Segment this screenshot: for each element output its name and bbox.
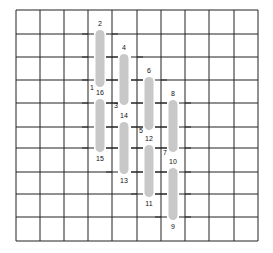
bar-bottom-label: 3 [114,102,118,109]
bar-top-label: 2 [98,20,102,27]
capsule-bar [145,145,154,197]
bar-bottom-label: 11 [145,200,152,207]
capsule-bar [96,99,105,152]
capsule-bar [169,100,178,152]
capsule-bar [120,122,129,174]
capsule-bar [120,54,129,105]
bar-top-label: 4 [122,44,126,51]
capsule-bar [169,168,178,220]
bar-bottom-label: 9 [171,223,175,230]
bar-bottom-label: 15 [96,155,104,162]
bar-top-label: 8 [171,90,175,97]
capsule-bar [145,77,154,130]
bar-bottom-label: 5 [139,127,143,134]
bar-bottom-label: 7 [163,149,167,156]
bar-top-label: 12 [145,135,153,142]
capsule-bar [96,30,105,87]
bar-top-label: 6 [147,67,151,74]
bar-bottom-label: 13 [120,177,128,184]
grid-diagram: 21161543141365121187109 [0,0,273,253]
bar-top-label: 14 [120,112,128,119]
grid-lines [16,10,258,241]
bar-bottom-label: 1 [90,84,94,91]
bar-top-label: 10 [169,158,177,165]
bar-top-label: 16 [96,89,104,96]
